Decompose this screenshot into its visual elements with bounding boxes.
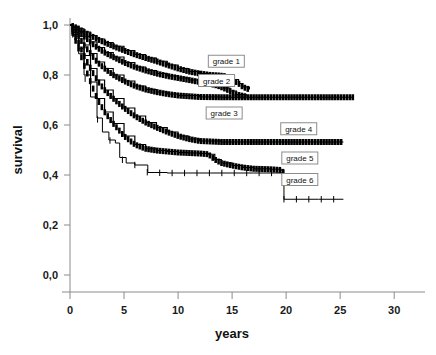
x-tick-label: 0 [67, 304, 73, 316]
x-tick-label: 15 [226, 304, 238, 316]
y-tick-label: 1,0 [43, 19, 58, 31]
x-tick-label: 5 [121, 304, 127, 316]
y-axis-title: survival [10, 125, 25, 174]
series-label-grade-6: grade 6 [282, 174, 318, 186]
label-text: grade 1 [213, 57, 241, 66]
series-label-grade-4: grade 4 [281, 123, 317, 135]
series-label-grade-3: grade 3 [206, 107, 242, 119]
y-tick-label: 0,6 [43, 119, 58, 131]
x-axis-title: years [215, 326, 249, 341]
label-text: grade 5 [286, 154, 314, 163]
y-tick-label: 0,0 [43, 269, 58, 281]
series-label-grade-1: grade 1 [208, 55, 244, 67]
label-text: grade 3 [211, 109, 239, 118]
series-label-grade-2: grade 2 [199, 75, 235, 87]
x-tick-label: 30 [388, 304, 400, 316]
label-text: grade 6 [286, 176, 314, 185]
x-tick-label: 20 [280, 304, 292, 316]
x-tick-label: 10 [172, 304, 184, 316]
label-text: grade 2 [203, 77, 231, 86]
y-tick-label: 0,8 [43, 69, 58, 81]
x-tick-label: 25 [334, 304, 346, 316]
y-axis-ticks: 0,00,20,40,60,81,0 [43, 19, 70, 281]
x-axis-ticks: 051015202530 [67, 292, 400, 316]
y-tick-label: 0,4 [43, 169, 59, 181]
survival-chart-figure: 0,00,20,40,60,81,0 051015202530 survival… [0, 0, 436, 355]
kaplan-meier-plot: 0,00,20,40,60,81,0 051015202530 survival… [0, 0, 436, 355]
y-tick-label: 0,2 [43, 219, 58, 231]
series-label-grade-5: grade 5 [282, 152, 318, 164]
label-text: grade 4 [285, 125, 313, 134]
